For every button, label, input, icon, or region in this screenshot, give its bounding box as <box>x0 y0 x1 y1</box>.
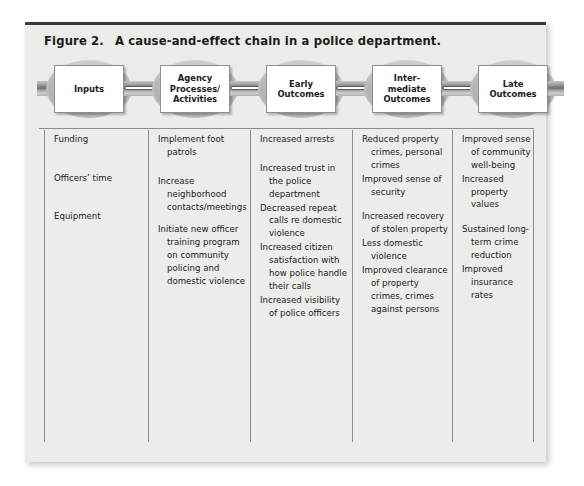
list-item: Equipment <box>54 210 145 223</box>
column-divider-5 <box>533 130 534 442</box>
figure-caption: Figure 2.A cause-and-effect chain in a p… <box>44 34 524 48</box>
list-item: Improved sense of security <box>362 173 449 199</box>
chain-box-inputs[interactable]: Inputs <box>54 65 124 113</box>
chain-box-early-outcomes[interactable]: Early Outcomes <box>266 65 336 113</box>
list-item: Improved sense of community well-being <box>462 133 531 172</box>
column-early-outcomes: Increased arrests Increased trust in the… <box>251 133 349 321</box>
chain-box-label: Inter- mediate Outcomes <box>381 73 432 105</box>
column-agency-processes: Implement foot patrols Increase neighbor… <box>149 133 247 298</box>
outcome-columns: Funding Officers’ time Equipment Impleme… <box>25 130 546 450</box>
list-item: Improved insurance rates <box>462 263 531 302</box>
list-item: Increased property values <box>462 173 531 212</box>
chain-box-label: Late Outcomes <box>487 79 538 100</box>
list-item: Sustained long-term crime reduction <box>462 223 531 262</box>
chain-box-agency-processes[interactable]: Agency Processes/ Activities <box>160 65 230 113</box>
chain-box-label: Agency Processes/ Activities <box>168 73 222 105</box>
cause-effect-chain: Inputs Agency Processes/ Activities Earl… <box>25 58 546 120</box>
list-item: Increased citizen satisfaction with how … <box>260 241 349 293</box>
list-item: Officers’ time <box>54 172 145 185</box>
figure-title: A cause-and-effect chain in a police dep… <box>115 34 441 48</box>
column-intermediate-outcomes: Reduced property crimes, personal crimes… <box>353 133 449 317</box>
list-item: Reduced property crimes, personal crimes <box>362 133 449 172</box>
figure-top-rule <box>25 22 546 25</box>
chain-box-intermediate-outcomes[interactable]: Inter- mediate Outcomes <box>372 65 442 113</box>
chain-box-late-outcomes[interactable]: Late Outcomes <box>478 65 548 113</box>
list-item: Funding <box>54 133 145 146</box>
list-item: Increased recovery of stolen property <box>362 210 449 236</box>
chain-box-label: Early Outcomes <box>275 79 326 100</box>
list-item: Increased trust in the police department <box>260 162 349 201</box>
figure-number: Figure 2. <box>44 34 104 48</box>
content-separator <box>39 128 534 129</box>
list-item: Implement foot patrols <box>158 133 247 159</box>
list-item: Improved clearance of property crimes, c… <box>362 264 449 316</box>
column-inputs: Funding Officers’ time Equipment <box>45 133 145 233</box>
list-item: Less domestic violence <box>362 237 449 263</box>
list-item: Increase neighborhood contacts/meetings <box>158 175 247 214</box>
chain-stub-right <box>548 81 564 96</box>
column-late-outcomes: Improved sense of community well-being I… <box>453 133 531 303</box>
list-item: Increased arrests <box>260 133 349 146</box>
list-item: Increased visibility of police officers <box>260 294 349 320</box>
chain-box-label: Inputs <box>72 84 106 95</box>
list-item: Decreased repeat calls re domestic viole… <box>260 202 349 241</box>
figure-panel: Figure 2.A cause-and-effect chain in a p… <box>25 22 546 462</box>
list-item: Initiate new officer training program on… <box>158 223 247 287</box>
